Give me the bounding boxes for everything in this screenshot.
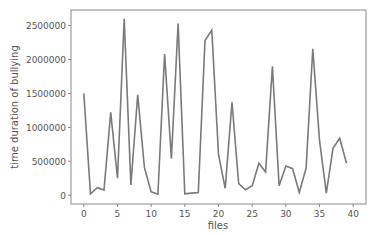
plot-frame	[71, 10, 366, 204]
y-axis-ticks: 05000001000000150000020000002500000	[26, 21, 71, 201]
x-axis-ticks: 0510152025303540	[81, 204, 359, 219]
x-tick-label: 10	[145, 209, 157, 219]
y-tick-label: 0	[60, 191, 66, 201]
y-tick-label: 2500000	[26, 21, 66, 31]
y-tick-label: 1000000	[26, 123, 66, 133]
x-tick-label: 30	[280, 209, 292, 219]
y-axis-label: time duration of bullying	[9, 45, 20, 168]
x-axis-label: files	[208, 220, 228, 231]
y-tick-label: 1500000	[26, 89, 66, 99]
data-line	[84, 19, 347, 194]
x-tick-label: 20	[213, 209, 225, 219]
x-tick-label: 40	[347, 209, 359, 219]
x-tick-label: 25	[246, 209, 257, 219]
x-tick-label: 0	[81, 209, 87, 219]
x-tick-label: 15	[179, 209, 190, 219]
y-tick-label: 500000	[32, 157, 67, 167]
x-tick-label: 5	[115, 209, 121, 219]
x-tick-label: 35	[314, 209, 325, 219]
y-tick-label: 2000000	[26, 55, 66, 65]
